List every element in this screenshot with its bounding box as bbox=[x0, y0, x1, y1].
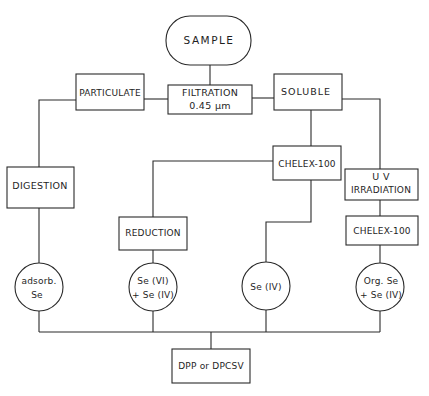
node-dpp-dpcsv: DPP or DPCSV bbox=[172, 349, 250, 383]
node-se-vi: Se (VI) + Se (IV) bbox=[129, 263, 177, 311]
edge-chelex-seiv bbox=[266, 180, 311, 262]
node-reduction: REDUCTION bbox=[119, 217, 187, 250]
node-se-iv: Se (IV) bbox=[242, 262, 290, 310]
node-org-se-line1: Org. Se bbox=[364, 276, 399, 286]
edge-soluble-uv bbox=[342, 99, 380, 169]
node-soluble: SOLUBLE bbox=[274, 74, 342, 110]
node-sample: SAMPLE bbox=[166, 16, 251, 65]
node-se-vi-line1: Se (VI) bbox=[137, 276, 168, 286]
node-filtration-line2: 0.45 µm bbox=[189, 100, 231, 111]
edge-chelex-reduction bbox=[153, 161, 273, 218]
node-se-vi-line2: + Se (IV) bbox=[132, 290, 174, 300]
node-adsorbed-se-line2: Se bbox=[31, 290, 43, 300]
node-uv-irradiation: U V IRRADIATION bbox=[345, 169, 418, 200]
node-soluble-label: SOLUBLE bbox=[281, 86, 331, 97]
node-chelex-right-label: CHELEX-100 bbox=[353, 226, 411, 236]
node-filtration-line1: FILTRATION bbox=[182, 87, 238, 98]
node-se-iv-label: Se (IV) bbox=[250, 282, 281, 292]
node-reduction-label: REDUCTION bbox=[125, 228, 181, 238]
node-uv-line2: IRRADIATION bbox=[351, 185, 411, 195]
node-adsorbed-se: adsorb. Se bbox=[15, 263, 63, 311]
node-digestion-label: DIGESTION bbox=[12, 180, 67, 191]
node-chelex-middle-label: CHELEX-100 bbox=[278, 159, 336, 169]
node-org-se-line2: + Se (IV) bbox=[360, 290, 402, 300]
node-particulate-label: PARTICULATE bbox=[79, 88, 141, 98]
node-chelex-middle: CHELEX-100 bbox=[273, 146, 341, 180]
speciation-flowchart: SAMPLE FILTRATION 0.45 µm PARTICULATE SO… bbox=[0, 0, 429, 396]
node-org-se: Org. Se + Se (IV) bbox=[356, 263, 404, 311]
node-adsorbed-se-line1: adsorb. bbox=[21, 276, 56, 286]
node-digestion: DIGESTION bbox=[7, 167, 74, 208]
node-sample-label: SAMPLE bbox=[184, 34, 235, 46]
node-filtration: FILTRATION 0.45 µm bbox=[168, 85, 252, 114]
node-uv-line1: U V bbox=[372, 171, 390, 182]
node-dpp-label: DPP or DPCSV bbox=[178, 361, 244, 371]
node-particulate: PARTICULATE bbox=[76, 74, 144, 110]
edge-particulate-digestion bbox=[39, 100, 76, 167]
node-chelex-right: CHELEX-100 bbox=[346, 216, 418, 245]
